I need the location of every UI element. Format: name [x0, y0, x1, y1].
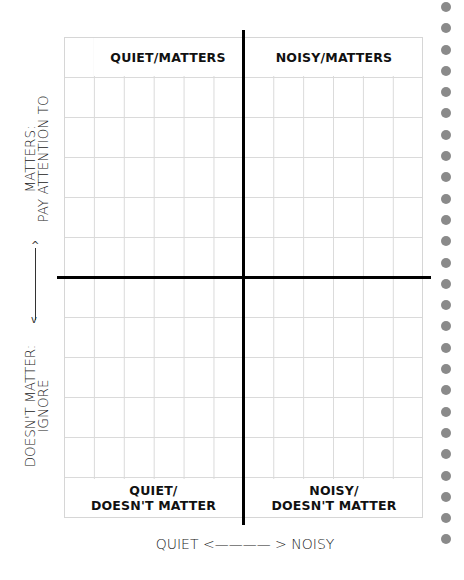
binder-dot-icon	[441, 215, 451, 225]
binder-dot-icon	[441, 172, 451, 182]
binder-dot-icon	[441, 449, 451, 459]
binder-dot-icon	[441, 385, 451, 395]
quadrant-label-line: DOESN'T MATTER	[271, 498, 396, 513]
binder-dot-icon	[441, 194, 451, 204]
binder-dot-icon	[441, 321, 451, 331]
binder-dot-icon	[441, 151, 451, 161]
quadrant-label-noisy-matters: NOISY/MATTERS	[246, 38, 422, 76]
binder-dot-icon	[441, 45, 451, 55]
quadrant-label-quiet-doesnt-matter: QUIET/ DOESN'T MATTER	[65, 479, 242, 517]
binder-dot-icon	[441, 87, 451, 97]
binder-dot-icon	[441, 513, 451, 523]
quadrant-label-noisy-doesnt-matter: NOISY/ DOESN'T MATTER	[246, 479, 422, 517]
binder-dot-icon	[441, 364, 451, 374]
binder-dot-icon	[441, 428, 451, 438]
binder-dots	[441, 2, 453, 556]
y-axis-label-line: IGNORE	[37, 336, 50, 476]
binder-dot-icon	[441, 130, 451, 140]
quadrant-label-line: NOISY/	[309, 483, 359, 498]
y-axis-label-matters: MATTERS: PAY ATTENTION TO	[24, 89, 52, 229]
x-axis-label: QUIET <———— > NOISY	[150, 536, 340, 552]
quadrant-label-quiet-matters: QUIET/MATTERS	[94, 38, 242, 76]
binder-dot-icon	[441, 2, 451, 12]
binder-dot-icon	[441, 471, 451, 481]
y-axis-label-doesnt-matter: DOESN'T MATTER: IGNORE	[24, 336, 52, 476]
binder-dot-icon	[441, 236, 451, 246]
binder-dot-icon	[441, 300, 451, 310]
binder-dot-icon	[441, 23, 451, 33]
binder-dot-icon	[441, 279, 451, 289]
binder-dot-icon	[441, 407, 451, 417]
binder-dot-icon	[441, 343, 451, 353]
y-axis-label-line: PAY ATTENTION TO	[37, 89, 50, 229]
binder-dot-icon	[441, 66, 451, 76]
y-axis-arrow	[35, 248, 36, 320]
binder-dot-icon	[441, 108, 451, 118]
quadrant-label-line: QUIET/	[129, 483, 177, 498]
binder-dot-icon	[441, 534, 451, 544]
horizontal-axis-line	[57, 276, 431, 279]
arrow-down-icon: v	[31, 316, 37, 324]
binder-dot-icon	[441, 492, 451, 502]
binder-dot-icon	[441, 258, 451, 268]
quadrant-label-line: DOESN'T MATTER	[91, 498, 216, 513]
